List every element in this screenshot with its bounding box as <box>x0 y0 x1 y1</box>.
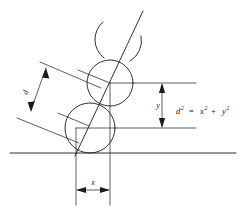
equation-d-squared: d 2 = x 2 + y 2 <box>176 105 230 116</box>
dimension-label-d: d <box>21 88 31 96</box>
equation-term2-base: y <box>221 106 226 116</box>
bottom-circle-radius-line <box>58 113 89 126</box>
d-extension-line-upper <box>40 62 101 88</box>
d-dimension-arrowhead-bottom <box>28 101 35 112</box>
equation-equals-sign: = <box>189 106 194 116</box>
y-dimension-arrowhead-top <box>159 83 165 93</box>
diagram-canvas: d y x d 2 = x 2 + y 2 <box>0 0 243 214</box>
y-dimension-arrowhead-bottom <box>159 118 165 128</box>
middle-circle-radius-line <box>78 70 110 83</box>
dimension-label-x: x <box>90 178 95 187</box>
x-dimension-arrowhead-right <box>100 187 110 193</box>
top-partial-circle <box>95 22 142 61</box>
equation-term1-base: x <box>199 106 204 116</box>
d-dimension-arrowhead-top <box>42 68 49 79</box>
equation-lhs-exponent: 2 <box>181 105 184 111</box>
d-extension-line-lower <box>17 118 79 143</box>
equation-term1-exponent: 2 <box>205 105 208 111</box>
x-dimension-arrowhead-left <box>76 187 86 193</box>
equation-plus-sign: + <box>211 106 216 116</box>
dimension-label-y: y <box>155 101 160 110</box>
equation-term2-exponent: 2 <box>227 105 230 111</box>
geometry-figure: d y x d 2 = x 2 + y 2 <box>0 0 243 214</box>
